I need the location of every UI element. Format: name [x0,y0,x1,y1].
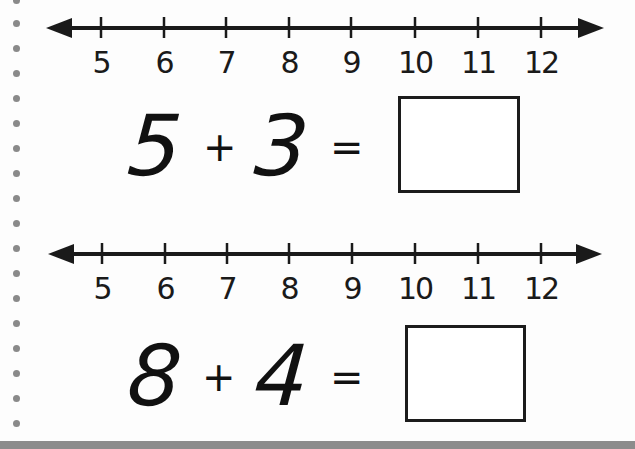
tick-label: 11 [458,48,498,78]
tick-label: 5 [81,48,121,78]
binder-dot [13,420,20,427]
binder-dot [13,145,20,152]
tick-label: 9 [331,48,371,78]
binder-dot [13,370,20,377]
number-line-1: 5 6 7 8 9 10 11 12 [0,0,635,80]
addend-2: 3 [252,104,311,188]
tick-label: 12 [521,274,561,304]
plus-sign: + [202,357,236,397]
page-bottom-border [0,441,635,449]
plus-sign: + [203,127,237,167]
binder-dot [13,95,20,102]
binder-dot [13,170,20,177]
binder-dot [13,395,20,402]
number-line-2: 5 6 7 8 9 10 11 12 [0,226,635,306]
addend-1: 8 [125,334,184,418]
tick-label: 10 [395,274,435,304]
answer-box-2[interactable] [405,325,526,422]
equals-sign: = [330,127,364,167]
equals-sign: = [330,357,364,397]
tick-label: 9 [332,274,372,304]
number-line-axis-icon [0,0,635,50]
number-line-axis-icon [0,226,635,276]
binder-dot [13,120,20,127]
tick-label: 7 [206,48,246,78]
tick-label: 6 [144,48,184,78]
tick-label: 10 [395,48,435,78]
tick-label: 11 [458,274,498,304]
answer-box-1[interactable] [398,96,520,193]
tick-label: 6 [145,274,185,304]
binder-dot [13,345,20,352]
tick-label: 8 [269,48,309,78]
tick-label: 12 [521,48,561,78]
addend-1: 5 [125,104,184,188]
tick-label: 5 [82,274,122,304]
binder-dot [13,320,20,327]
tick-label: 8 [269,274,309,304]
tick-label: 7 [207,274,247,304]
binder-dot [13,195,20,202]
addend-2: 4 [252,334,311,418]
